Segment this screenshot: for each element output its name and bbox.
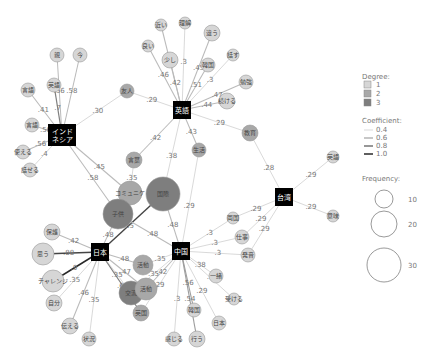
word-node[interactable]: 一緒: [209, 269, 223, 283]
edge-coefficient-label: .48: [118, 255, 129, 263]
word-node[interactable]: 英国: [133, 305, 149, 321]
word-node[interactable]: 受ける: [225, 293, 243, 305]
word-node[interactable]: 仕事: [235, 230, 249, 244]
word-node[interactable]: 状況: [82, 332, 96, 346]
word-node[interactable]: 使える: [14, 145, 32, 159]
hub-label: インド: [52, 128, 73, 136]
edge-coefficient-label: .9: [71, 264, 78, 272]
node-label: 勉強: [240, 78, 252, 86]
node-label: 受ける: [225, 295, 243, 303]
node-label: 保護: [46, 228, 58, 236]
node-label: 話す: [227, 51, 239, 59]
node-label: 言葉: [128, 156, 140, 164]
word-node[interactable]: 活動: [133, 255, 153, 275]
word-node[interactable]: 国際: [146, 177, 180, 211]
word-node[interactable]: 勉強: [239, 75, 253, 89]
node-label: 使える: [14, 148, 32, 156]
node-label: 子供: [112, 210, 124, 218]
legend-degree-title: Degree:: [362, 73, 390, 81]
word-node[interactable]: 両国: [227, 212, 239, 224]
node-label: 少し: [164, 56, 176, 63]
node-label: チャレンジ: [38, 277, 68, 284]
word-node[interactable]: 韓国: [201, 58, 215, 72]
hub-node-chugoku[interactable]: 中国: [172, 242, 190, 260]
word-node[interactable]: 英語: [327, 151, 339, 163]
word-node[interactable]: 友人: [120, 84, 134, 98]
word-node[interactable]: 日本: [212, 316, 226, 330]
edge: [181, 150, 199, 251]
edge-coefficient-label: .43: [186, 128, 197, 136]
legend: Degree:123Coefficient:0.40.60.81.0Freque…: [362, 73, 417, 282]
edge-coefficient-label: .35: [155, 255, 166, 263]
node-label: 活動: [140, 285, 152, 293]
edge-coefficient-label: .42: [150, 134, 161, 142]
word-node[interactable]: 意味: [327, 210, 339, 222]
edge-coefficient-label: .58: [87, 174, 98, 182]
hub-node-indonesia[interactable]: インドネシア: [48, 124, 76, 146]
node-label: 今: [77, 51, 83, 59]
edge-coefficient-label: .3: [174, 295, 181, 303]
node-label: 韓国: [188, 306, 200, 314]
word-node[interactable]: 良い: [142, 40, 154, 52]
word-node[interactable]: 親: [50, 48, 64, 62]
word-node[interactable]: 近い: [155, 19, 167, 31]
word-node[interactable]: 話す: [227, 49, 239, 61]
word-node[interactable]: 韓国: [187, 303, 201, 317]
word-node[interactable]: 教育: [242, 125, 258, 141]
word-node[interactable]: 言葉: [126, 152, 142, 168]
legend-coefficient-label: 0.8: [376, 142, 387, 150]
legend-frequency-title: Frequency:: [362, 175, 400, 183]
hub-node-eigo[interactable]: 英語: [173, 101, 191, 119]
edge-coefficient-label: .56: [35, 140, 47, 148]
node-label: 英語: [48, 81, 60, 89]
word-node[interactable]: 言語: [21, 83, 35, 97]
word-node[interactable]: 行う: [189, 331, 205, 347]
frequency-circle: [375, 190, 393, 208]
legend-frequency-label: 30: [408, 262, 417, 270]
edge-coefficient-label: .7: [54, 104, 61, 112]
word-node[interactable]: 思う: [32, 243, 54, 265]
word-node[interactable]: 感じる: [165, 332, 183, 346]
word-node[interactable]: 今: [73, 48, 87, 62]
frequency-circle: [371, 211, 397, 237]
legend-coefficient-label: 1.0: [376, 150, 387, 158]
edge-coefficient-label: .4: [41, 150, 48, 158]
word-node[interactable]: 英語: [47, 78, 61, 92]
node-label: 教育: [244, 129, 256, 137]
word-node[interactable]: 少し: [162, 52, 178, 68]
hub-label: 中国: [174, 247, 188, 256]
node-label: 言語: [26, 121, 38, 129]
word-node[interactable]: 活動: [135, 278, 157, 300]
word-node[interactable]: 発音: [241, 248, 255, 262]
word-node[interactable]: 伝える: [61, 318, 79, 334]
edge-coefficient-label: .38: [166, 152, 177, 160]
word-node[interactable]: 話せる: [21, 163, 39, 177]
degree-swatch: [364, 81, 371, 88]
hub-node-taiwan[interactable]: 台湾: [275, 188, 293, 206]
word-node[interactable]: チャレンジ: [38, 270, 68, 292]
node-label: 言語: [22, 86, 34, 94]
edge: [62, 55, 80, 135]
edge-coefficient-label: .30: [92, 107, 103, 115]
edge-coefficient-label: .35: [88, 296, 99, 304]
hub-node-nihon[interactable]: 日本: [91, 243, 109, 261]
word-node[interactable]: 生活: [192, 143, 206, 157]
edge-coefficient-label: .3: [211, 239, 218, 247]
word-node[interactable]: 自分: [46, 295, 62, 311]
word-node[interactable]: 保護: [44, 224, 60, 240]
edge-coefficient-label: .58: [66, 87, 77, 95]
node-label: 自分: [48, 299, 60, 307]
node-label: 両国: [227, 214, 239, 222]
edge-coefficient-label: .42: [68, 237, 79, 245]
word-node[interactable]: 理解: [179, 17, 191, 29]
edge-coefficient-label: .48: [147, 230, 158, 238]
word-node[interactable]: 言語: [25, 118, 39, 132]
word-node[interactable]: 違う: [204, 25, 220, 41]
node-label: 生活: [193, 146, 205, 154]
node-label: 日本: [213, 319, 225, 327]
edge-coefficient-label: .46: [158, 71, 170, 79]
word-node[interactable]: 子供: [103, 199, 133, 229]
legend-degree-label: 1: [376, 81, 380, 89]
node-label: 仕事: [236, 233, 248, 241]
degree-swatch: [364, 99, 371, 106]
